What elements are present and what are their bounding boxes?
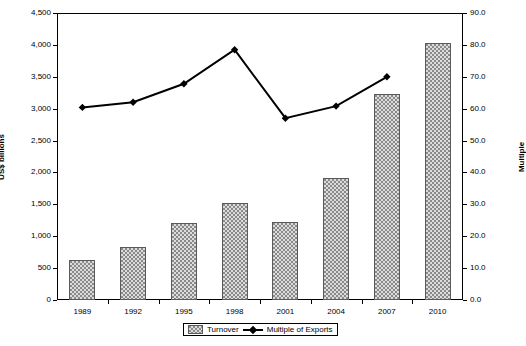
legend-swatch-turnover bbox=[188, 325, 203, 334]
line-path-multiple-of-exports bbox=[82, 50, 387, 119]
line-marker-1992 bbox=[129, 99, 136, 106]
chart-legend: Turnover Multiple of Exports bbox=[183, 323, 338, 336]
left-axis-title: US$ billions bbox=[0, 134, 6, 180]
legend-label-multiple-of-exports: Multiple of Exports bbox=[267, 325, 333, 334]
right-axis-title: Multiple bbox=[518, 141, 526, 171]
legend-line-multiple-of-exports bbox=[243, 326, 263, 334]
legend-label-turnover: Turnover bbox=[207, 325, 239, 334]
line-marker-1989 bbox=[79, 104, 86, 111]
